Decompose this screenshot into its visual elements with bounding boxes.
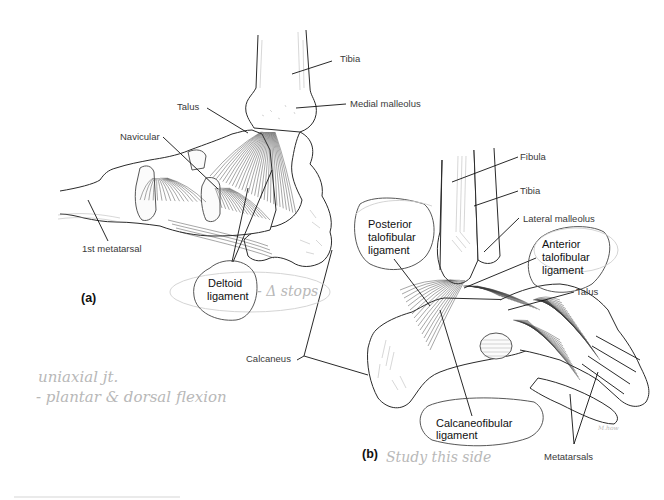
label-calcaneofibular-1: Calcaneofibular [436,417,513,429]
leader-talus-a [207,108,248,133]
note-uniaxial-joint: uniaxial jt. [38,368,118,386]
note-study-this-side: Study this side [386,449,491,465]
panel-label-a: (a) [81,291,96,305]
label-tibia-a: Tibia [340,53,361,64]
label-calcaneofibular-2: ligament [436,429,478,441]
label-deltoid-ligament-1: Deltoid [208,277,242,289]
ankle-ligament-diagram: Tibia Medial malleolus Talus Navicular 1… [0,0,664,500]
label-metatarsals: Metatarsals [544,451,593,462]
tendon-cross-section [480,333,512,359]
panel-label-b: (b) [362,447,378,461]
panel-b-lateral-view: Fibula Tibia Lateral malleolus Posterior… [304,148,649,462]
panel-a-medial-view: Tibia Medial malleolus Talus Navicular 1… [58,30,421,364]
label-posterior-2: talofibular [368,231,416,243]
label-anterior-3: ligament [542,264,584,276]
note-delta-stops: - Δ stops [257,283,318,299]
label-navicular: Navicular [120,131,160,142]
ligament-fiber [274,132,290,211]
label-posterior-1: Posterior [368,218,412,230]
ligament-fiber [404,280,453,298]
label-1st-metatarsal: 1st metatarsal [82,243,142,254]
label-calcaneus: Calcaneus [246,353,291,364]
pencil-oval-posterior [356,200,432,214]
label-posterior-3: ligament [368,244,410,256]
fibula-bone-b [437,150,478,284]
artist-signature: M.how [597,424,620,431]
label-anterior-1: Anterior [542,238,581,250]
note-plantar-dorsal-flexion: - plantar & dorsal flexion [36,388,227,406]
tibia-bone-a [246,30,317,132]
label-tibia-b: Tibia [520,185,541,196]
label-fibula: Fibula [520,151,547,162]
label-lateral-malleolus: Lateral malleolus [523,213,595,224]
label-talus-b: Talus [576,286,598,297]
label-medial-malleolus: Medial malleolus [350,98,421,109]
leader-calcaneus-b [304,356,368,375]
label-talus-a: Talus [177,101,199,112]
label-anterior-2: talofibular [542,251,590,263]
metatarsals-b [500,284,649,424]
label-deltoid-ligament-2: ligament [207,290,249,302]
